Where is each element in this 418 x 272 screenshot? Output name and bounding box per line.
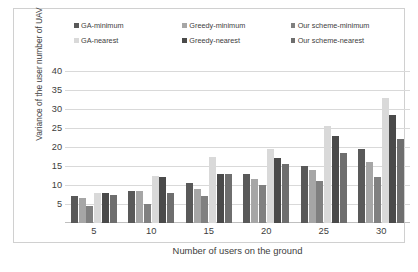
x-tick-label: 20 xyxy=(238,225,296,239)
bar-group xyxy=(238,71,296,223)
bar[interactable] xyxy=(159,177,166,223)
chart-legend: GA-minimumGreedy-minimumOur scheme-minim… xyxy=(74,18,399,48)
x-tick-label: 10 xyxy=(123,225,181,239)
bar[interactable] xyxy=(110,195,117,224)
x-tick-label: 5 xyxy=(65,225,123,239)
bar[interactable] xyxy=(389,115,396,223)
bar[interactable] xyxy=(309,170,316,223)
plot-area xyxy=(65,71,410,223)
x-axis-title: Number of users on the ground xyxy=(65,245,410,256)
bar[interactable] xyxy=(194,189,201,223)
bar[interactable] xyxy=(358,149,365,223)
legend-item-label: Our scheme-minimum xyxy=(298,22,370,29)
bar[interactable] xyxy=(225,174,232,223)
bar[interactable] xyxy=(209,157,216,224)
bar-group xyxy=(353,71,411,223)
bar[interactable] xyxy=(102,193,109,223)
bar[interactable] xyxy=(94,193,101,223)
y-tick-label: 30 xyxy=(38,104,62,114)
legend-item[interactable]: GA-minimum xyxy=(74,18,182,33)
legend-item[interactable]: Greedy-minimum xyxy=(182,18,290,33)
legend-item[interactable]: Our scheme-minimum xyxy=(291,18,399,33)
bar[interactable] xyxy=(201,196,208,223)
bar[interactable] xyxy=(152,176,159,224)
bar[interactable] xyxy=(301,166,308,223)
bar-group xyxy=(65,71,123,223)
legend-swatch-icon xyxy=(182,38,187,43)
bar[interactable] xyxy=(217,174,224,223)
bar[interactable] xyxy=(79,198,86,223)
bar[interactable] xyxy=(332,136,339,223)
legend-item[interactable]: Greedy-nearest xyxy=(182,33,290,48)
bar[interactable] xyxy=(144,204,151,223)
bar-group xyxy=(180,71,238,223)
bar[interactable] xyxy=(186,183,193,223)
bar[interactable] xyxy=(366,162,373,223)
bar[interactable] xyxy=(397,139,404,223)
y-tick-label: 20 xyxy=(38,142,62,152)
x-axis-tick-labels: 51015202530 xyxy=(65,225,410,239)
bar[interactable] xyxy=(316,181,323,223)
legend-swatch-icon xyxy=(74,23,79,28)
bar[interactable] xyxy=(251,179,258,223)
bar[interactable] xyxy=(71,196,78,223)
y-tick-label: 35 xyxy=(38,85,62,95)
y-tick-label: 40 xyxy=(38,66,62,76)
legend-item[interactable]: Our scheme-nearest xyxy=(291,33,399,48)
legend-swatch-icon xyxy=(182,23,187,28)
x-tick-label: 15 xyxy=(180,225,238,239)
bar-group xyxy=(295,71,353,223)
y-axis-tick-labels: 403530252015105 xyxy=(38,71,62,223)
legend-item-label: Greedy-minimum xyxy=(189,22,245,29)
bar[interactable] xyxy=(259,185,266,223)
bar[interactable] xyxy=(374,177,381,223)
y-tick-label: 5 xyxy=(38,199,62,209)
bar[interactable] xyxy=(267,149,274,223)
legend-item-label: GA-nearest xyxy=(81,37,118,44)
bar[interactable] xyxy=(382,98,389,223)
x-tick-label: 25 xyxy=(295,225,353,239)
y-tick-label: 10 xyxy=(38,180,62,190)
y-tick-label: 25 xyxy=(38,123,62,133)
bar[interactable] xyxy=(274,158,281,223)
x-tick-label: 30 xyxy=(353,225,411,239)
bar[interactable] xyxy=(136,191,143,223)
bar[interactable] xyxy=(128,191,135,223)
bar[interactable] xyxy=(243,174,250,223)
legend-item-label: Our scheme-nearest xyxy=(298,37,365,44)
y-tick-label: 15 xyxy=(38,161,62,171)
legend-swatch-icon xyxy=(291,38,296,43)
chart-container: GA-minimumGreedy-minimumOur scheme-minim… xyxy=(13,8,405,243)
bar[interactable] xyxy=(340,153,347,223)
bar[interactable] xyxy=(167,193,174,223)
bar[interactable] xyxy=(282,164,289,223)
bar-group xyxy=(123,71,181,223)
legend-item-label: GA-minimum xyxy=(81,22,124,29)
bar[interactable] xyxy=(86,206,93,223)
legend-item[interactable]: GA-nearest xyxy=(74,33,182,48)
bar[interactable] xyxy=(324,126,331,223)
legend-item-label: Greedy-nearest xyxy=(189,37,240,44)
legend-swatch-icon xyxy=(74,38,79,43)
legend-swatch-icon xyxy=(291,23,296,28)
